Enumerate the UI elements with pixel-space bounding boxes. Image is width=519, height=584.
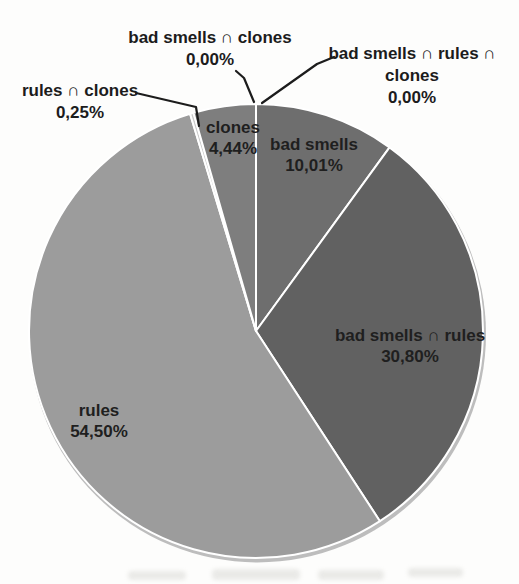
scan-artifact bbox=[408, 568, 463, 577]
leader-line-bad-smells-clones bbox=[236, 71, 254, 102]
scan-artifact bbox=[318, 570, 384, 580]
pie-chart-svg bbox=[0, 0, 519, 584]
pie-chart-figure: bad smells10,01%bad smells ∩ rules30,80%… bbox=[0, 0, 519, 584]
leader-line-bad-smells-rules-clones bbox=[262, 57, 334, 103]
scan-artifact bbox=[212, 569, 300, 580]
scan-artifact bbox=[128, 571, 186, 580]
